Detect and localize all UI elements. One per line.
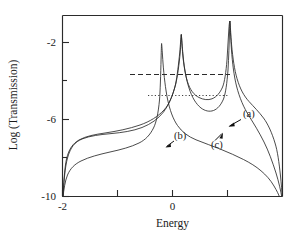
- y-tick-label-minus10: -10: [41, 190, 56, 202]
- y-tick-label-minus2: -2: [47, 36, 56, 48]
- curve-a-arrow-head: [229, 123, 235, 127]
- x-tick-label-zero: 0: [170, 200, 176, 212]
- y-tick-label-minus6: -6: [47, 113, 57, 125]
- x-tick-label-minus2: -2: [58, 200, 67, 212]
- x-axis-title: Energy: [156, 217, 189, 230]
- curve-b: [63, 44, 280, 198]
- y-axis-title: Log (Transmission): [7, 60, 20, 151]
- x-axis-ticks: [63, 190, 228, 197]
- curve-b-label: (b): [174, 130, 187, 142]
- annotation-b: (b): [165, 130, 186, 147]
- annotation-c: (c): [211, 133, 223, 152]
- curve-a-label: (a): [243, 108, 255, 120]
- figure-container: -2 -6 -10 -2 0 Energy Log (Transmission): [0, 0, 295, 233]
- curve-c-label: (c): [211, 139, 223, 151]
- axes-frame: [63, 16, 283, 197]
- curve-b-arrow-head: [165, 143, 171, 147]
- transmission-log-plot: -2 -6 -10 -2 0 Energy Log (Transmission): [0, 0, 295, 233]
- annotation-a: (a): [229, 108, 256, 127]
